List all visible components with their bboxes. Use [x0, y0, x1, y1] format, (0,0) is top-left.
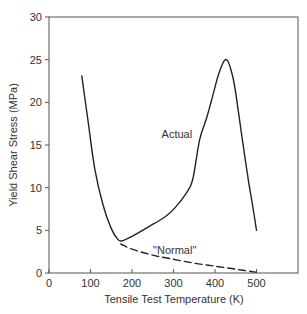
y-tick-label: 15	[30, 139, 42, 151]
y-axis-ticks: 051015202530	[30, 11, 49, 279]
x-tick-label: 400	[206, 277, 224, 289]
x-tick-label: 200	[123, 277, 141, 289]
yield-stress-chart: 051015202530 0100200300400500 Actual"Nor…	[0, 0, 307, 314]
y-tick-label: 20	[30, 96, 42, 108]
x-tick-label: 100	[81, 277, 99, 289]
y-tick-label: 5	[36, 224, 42, 236]
y-tick-label: 0	[36, 267, 42, 279]
annotations: Actual"Normal"	[153, 128, 196, 256]
actual-curve	[82, 60, 257, 242]
plot-area	[49, 17, 298, 273]
x-tick-label: 500	[247, 277, 265, 289]
normal-label: "Normal"	[153, 244, 196, 256]
y-tick-label: 30	[30, 11, 42, 23]
actual-label: Actual	[162, 128, 193, 140]
y-tick-label: 25	[30, 54, 42, 66]
y-axis-label: Yield Shear Stress (MPa)	[7, 83, 19, 207]
x-axis-ticks: 0100200300400500	[46, 269, 266, 289]
y-tick-label: 10	[30, 182, 42, 194]
series-group	[82, 60, 257, 273]
x-axis-label: Tensile Test Temperature (K)	[104, 293, 244, 305]
x-tick-label: 300	[164, 277, 182, 289]
x-tick-label: 0	[46, 277, 52, 289]
